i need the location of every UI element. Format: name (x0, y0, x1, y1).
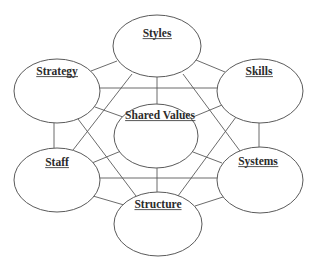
node-structure: Structure (114, 192, 202, 256)
node-skills: Skills (217, 59, 303, 123)
node-label-styles: Styles (143, 27, 172, 40)
node-label-staff: Staff (45, 156, 69, 168)
node-label-systems: Systems (238, 155, 278, 168)
node-label-structure: Structure (134, 198, 181, 210)
node-styles: Styles (113, 15, 201, 77)
node-label-shared-values: Shared Values (125, 109, 195, 121)
node-staff: Staff (14, 148, 100, 212)
node-systems: Systems (217, 147, 303, 213)
node-strategy: Strategy (14, 59, 100, 123)
node-label-strategy: Strategy (36, 65, 78, 78)
seven-s-diagram: StylesStrategySkillsShared ValuesStaffSy… (0, 0, 313, 270)
node-ellipse-styles (113, 15, 201, 77)
node-shared-values: Shared Values (114, 104, 198, 168)
node-label-skills: Skills (246, 65, 273, 77)
